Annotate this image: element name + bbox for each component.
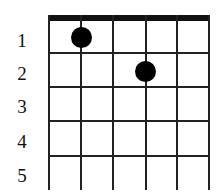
- fret-line-3: [48, 120, 210, 122]
- fret-label-3: 3: [14, 97, 30, 117]
- finger-dot-fret2-string4: [135, 61, 156, 82]
- string-line-1: [48, 15, 50, 190]
- string-line-4: [145, 15, 147, 190]
- nut: [48, 15, 210, 21]
- string-line-6: [208, 15, 210, 190]
- fret-label-4: 4: [14, 132, 30, 152]
- fret-line-2: [48, 86, 210, 88]
- string-line-5: [176, 15, 178, 190]
- fret-line-4: [48, 155, 210, 157]
- fret-label-5: 5: [14, 166, 30, 186]
- fret-line-1: [48, 52, 210, 54]
- finger-dot-fret1-string2: [71, 27, 92, 48]
- fret-label-1: 1: [14, 31, 30, 51]
- string-line-3: [112, 15, 114, 190]
- fret-label-2: 2: [14, 64, 30, 84]
